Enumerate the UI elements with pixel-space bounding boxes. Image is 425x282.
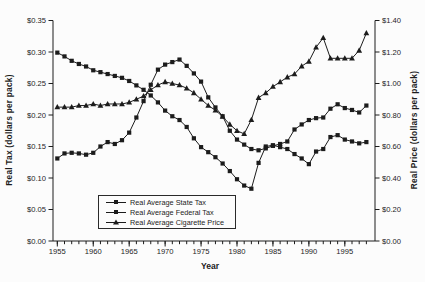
series-real-average-cigarette-price bbox=[54, 30, 369, 136]
y-axis-right: $0.00$0.20$0.40$0.60$0.80$1.00$1.20$1.40 bbox=[375, 16, 401, 246]
y-left-tick-label: $0.00 bbox=[27, 237, 46, 246]
x-axis: 195519601965197019751980198519901995 bbox=[49, 241, 367, 256]
x-tick-label: 1960 bbox=[85, 247, 102, 256]
x-tick-label: 1975 bbox=[193, 247, 210, 256]
y-right-tick-label: $0.80 bbox=[382, 111, 401, 120]
legend-label: Real Average State Tax bbox=[130, 198, 206, 207]
y-axis-right-title: Real Price (dollars per pack) bbox=[409, 71, 419, 189]
state-tax-line-key bbox=[106, 199, 126, 206]
y-right-tick-label: $1.40 bbox=[382, 16, 401, 25]
y-right-tick-label: $0.00 bbox=[382, 237, 401, 246]
triangle-marker-icon bbox=[113, 220, 119, 225]
legend-item-cigarette-price: Real Average Cigarette Price bbox=[106, 217, 235, 227]
x-tick-label: 1990 bbox=[300, 247, 317, 256]
x-tick-label: 1980 bbox=[229, 247, 246, 256]
square-marker-icon bbox=[114, 200, 118, 204]
cigarette-price-line-key bbox=[106, 219, 126, 226]
y-axis-left-title: Real Tax (dollars per pack) bbox=[4, 74, 14, 185]
federal-tax-line-key bbox=[106, 209, 126, 216]
series-real-average-federal-tax bbox=[55, 51, 368, 191]
x-tick-label: 1955 bbox=[49, 247, 66, 256]
chart-canvas: $0.00$0.05$0.10$0.15$0.20$0.25$0.30$0.35… bbox=[0, 0, 425, 282]
x-tick-label: 1985 bbox=[264, 247, 281, 256]
x-tick-label: 1970 bbox=[157, 247, 174, 256]
legend-item-state-tax: Real Average State Tax bbox=[106, 197, 235, 207]
cigarette-tax-price-chart: $0.00$0.05$0.10$0.15$0.20$0.25$0.30$0.35… bbox=[0, 0, 425, 282]
y-right-tick-label: $0.60 bbox=[382, 142, 401, 151]
legend-item-federal-tax: Real Average Federal Tax bbox=[106, 207, 235, 217]
y-right-tick-label: $0.40 bbox=[382, 174, 401, 183]
y-left-tick-label: $0.35 bbox=[27, 16, 46, 25]
y-right-tick-label: $0.20 bbox=[382, 205, 401, 214]
x-tick-label: 1995 bbox=[336, 247, 353, 256]
y-axis-left: $0.00$0.05$0.10$0.15$0.20$0.25$0.30$0.35 bbox=[27, 16, 53, 246]
y-left-tick-label: $0.20 bbox=[27, 111, 46, 120]
legend: Real Average State Tax Real Average Fede… bbox=[98, 195, 236, 229]
y-left-tick-label: $0.30 bbox=[27, 48, 46, 57]
x-axis-title: Year bbox=[201, 261, 220, 271]
y-left-tick-label: $0.10 bbox=[27, 174, 46, 183]
x-tick-label: 1965 bbox=[121, 247, 138, 256]
legend-label: Real Average Federal Tax bbox=[130, 208, 214, 217]
y-left-tick-label: $0.25 bbox=[27, 79, 46, 88]
y-left-tick-label: $0.15 bbox=[27, 142, 46, 151]
y-left-tick-label: $0.05 bbox=[27, 205, 46, 214]
y-right-tick-label: $1.20 bbox=[382, 48, 401, 57]
square-marker-icon bbox=[114, 210, 118, 214]
y-right-tick-label: $1.00 bbox=[382, 79, 401, 88]
legend-label: Real Average Cigarette Price bbox=[130, 218, 224, 227]
